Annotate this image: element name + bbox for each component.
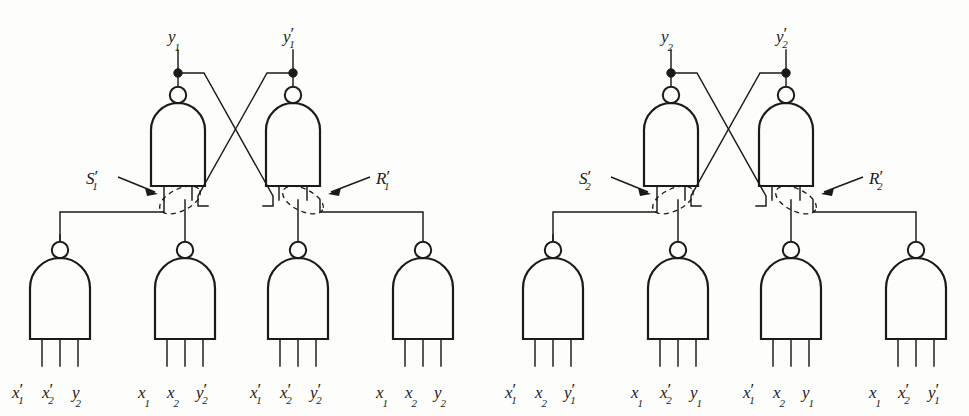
b2-input-nand-4: x1 x′2 y′1 bbox=[868, 242, 946, 409]
b2-g3-body bbox=[761, 258, 821, 339]
b1-g3-body bbox=[268, 258, 328, 339]
b1-g1-body bbox=[30, 258, 90, 339]
b2-g2-bubble-icon bbox=[670, 242, 686, 258]
b1-latch-nand-left bbox=[151, 87, 205, 200]
b1-g4-input-label-2: x2 bbox=[404, 383, 418, 409]
b1-g4-bubble-icon bbox=[415, 242, 431, 258]
b1-s-label-group: S′1 bbox=[86, 167, 158, 196]
b1-input-nand-2: x1 x2 y′2 bbox=[137, 242, 215, 409]
b1-g3-bubble-icon bbox=[290, 242, 306, 258]
b1-top-input-label-left: y1 bbox=[166, 27, 180, 53]
b1-g3-input-label-3: y′2 bbox=[308, 380, 322, 406]
b2-g4-body bbox=[886, 258, 946, 339]
b1-latch-right-bubble-icon bbox=[285, 87, 301, 103]
b2-input-nand-1: x′1 x2 y′1 bbox=[504, 235, 583, 409]
b2-s-label-group: S′2 bbox=[579, 167, 651, 196]
b1-r-wire-to-gate4 bbox=[320, 200, 423, 243]
b2-r-wire-to-gate4 bbox=[813, 200, 916, 243]
b1-latch-right-body bbox=[266, 103, 320, 186]
b2-s-arrow-head-icon bbox=[638, 188, 651, 196]
b1-g2-bubble-icon bbox=[177, 242, 193, 258]
b2-input-nand-2: x1 x′2 y1 bbox=[630, 242, 708, 409]
b1-input-nand-3: x′1 x′2 y′2 bbox=[249, 242, 328, 406]
b2-top-feeds bbox=[667, 50, 790, 88]
b2-top-input-label-right: y′2 bbox=[774, 24, 788, 50]
b2-input-nand-3: x′1 x2 y1 bbox=[742, 242, 821, 409]
b1-latch-nand-right bbox=[266, 87, 320, 200]
b1-g2-input-label-2: x2 bbox=[166, 383, 180, 409]
b2-g2-input-label-1: x1 bbox=[630, 383, 643, 409]
b1-g2-body bbox=[155, 258, 215, 339]
b2-g1-input-label-3: y′1 bbox=[562, 380, 576, 406]
b2-latch-right-bubble-icon bbox=[778, 87, 794, 103]
b2-r-label: R′2 bbox=[868, 167, 883, 192]
b2-g1-body bbox=[523, 258, 583, 339]
b1-r-arrow-shaft bbox=[331, 177, 370, 192]
b2-sr-wiring bbox=[553, 200, 916, 243]
b2-g3-bubble-icon bbox=[783, 242, 799, 258]
block-1: S′1 R′1 x′1 x′2 y2 bbox=[11, 24, 453, 409]
b1-g3-input-label-1: x′1 bbox=[249, 380, 262, 406]
b2-g1-bubble-icon bbox=[545, 242, 561, 258]
b1-s-arrow-head-icon bbox=[145, 188, 158, 196]
b1-g4-input-label-1: x1 bbox=[375, 383, 388, 409]
b1-s-arrow-shaft bbox=[118, 177, 155, 192]
b1-g3-input-label-2: x′2 bbox=[279, 380, 292, 406]
b1-g2-input-label-1: x1 bbox=[137, 383, 150, 409]
circuit-diagram-canvas: S′1 R′1 x′1 x′2 y2 bbox=[0, 0, 969, 416]
b2-g2-input-label-2: x′2 bbox=[659, 380, 672, 406]
b2-g1-input-label-2: x2 bbox=[534, 383, 548, 409]
b1-g1-input-label-1: x′1 bbox=[11, 380, 24, 406]
b1-s-wire-to-gate1 bbox=[60, 200, 164, 243]
b2-g1-input-label-1: x′1 bbox=[504, 380, 517, 406]
b1-latch-left-bubble-icon bbox=[170, 87, 186, 103]
b1-g1-input-label-3: y2 bbox=[70, 383, 82, 409]
b1-top-input-label-right: y′1 bbox=[281, 24, 295, 50]
b2-r-label-group: R′2 bbox=[821, 167, 883, 196]
b2-top-input-label-left: y2 bbox=[659, 27, 674, 53]
b2-latch-nand-right bbox=[759, 87, 813, 200]
b1-r-arrow-head-icon bbox=[328, 188, 341, 196]
b2-s-label: S′2 bbox=[579, 167, 591, 192]
b2-g3-input-label-2: x2 bbox=[772, 383, 786, 409]
b2-g4-bubble-icon bbox=[908, 242, 924, 258]
b1-g2-input-label-3: y′2 bbox=[194, 380, 208, 406]
b2-r-arrow-shaft bbox=[824, 177, 863, 192]
b2-latch-left-body bbox=[644, 103, 698, 186]
b1-r-label-group: R′1 bbox=[328, 167, 390, 196]
b1-input-nand-4: x1 x2 y2 bbox=[375, 242, 453, 409]
b1-g1-bubble-icon bbox=[52, 242, 68, 258]
b2-s-arrow-shaft bbox=[611, 177, 648, 192]
b1-top-feeds bbox=[174, 50, 297, 88]
b2-r-arrow-head-icon bbox=[821, 188, 834, 196]
b1-latch-left-body bbox=[151, 103, 205, 186]
b2-latch-left-bubble-icon bbox=[663, 87, 679, 103]
b2-g4-input-label-1: x1 bbox=[868, 383, 881, 409]
b2-latch-nand-left bbox=[644, 87, 698, 200]
b2-g4-input-label-3: y′1 bbox=[926, 380, 940, 406]
b1-g4-body bbox=[393, 258, 453, 339]
block-2: S′2 R′2 x′1 x2 y′1 x1 x′2 bbox=[504, 24, 946, 409]
b1-s-label: S′1 bbox=[86, 167, 98, 192]
b2-g3-input-label-3: y1 bbox=[800, 383, 814, 409]
b2-s-wire-to-gate1 bbox=[553, 200, 657, 243]
b1-g1-input-label-2: x′2 bbox=[41, 380, 54, 406]
circuit-svg: S′1 R′1 x′1 x′2 y2 bbox=[0, 0, 969, 416]
b2-latch-right-body bbox=[759, 103, 813, 186]
b1-sr-wiring bbox=[60, 200, 423, 243]
b2-g2-input-label-3: y1 bbox=[688, 383, 702, 409]
b2-g2-body bbox=[648, 258, 708, 339]
b2-g3-input-label-1: x′1 bbox=[742, 380, 755, 406]
b1-g4-input-label-3: y2 bbox=[432, 383, 447, 409]
b2-g4-input-label-2: x′2 bbox=[897, 380, 910, 406]
b1-r-label: R′1 bbox=[375, 167, 390, 192]
b1-input-nand-1: x′1 x′2 y2 bbox=[11, 235, 90, 409]
